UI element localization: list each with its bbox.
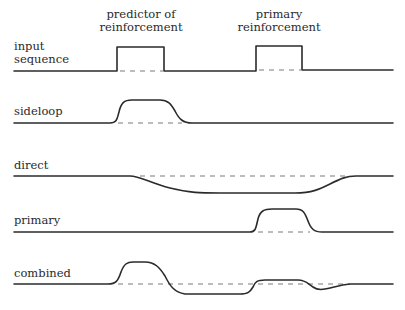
trace-combined <box>14 262 393 294</box>
baseline-dashes <box>118 70 350 284</box>
signal-diagram <box>0 0 405 310</box>
trace-primary <box>14 209 393 232</box>
trace-direct <box>14 176 393 193</box>
trace-sideloop <box>14 100 393 123</box>
trace-input-sequence <box>14 46 393 71</box>
